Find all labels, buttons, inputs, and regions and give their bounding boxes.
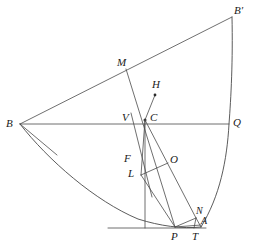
label-point-H: H (152, 79, 160, 90)
label-point-Bprime: B′ (234, 5, 243, 16)
segment-N-T (194, 218, 196, 228)
arc-Bprime-Q-A (201, 17, 232, 227)
geometry-canvas (0, 0, 256, 252)
label-point-B: B (6, 118, 13, 129)
label-point-P: P (171, 231, 178, 242)
label-point-O: O (170, 154, 178, 165)
point-dot-H (154, 94, 157, 97)
label-point-Q: Q (233, 117, 241, 128)
label-point-A: A (201, 216, 207, 226)
label-point-V: V (122, 112, 129, 123)
segment-L-P (141, 175, 175, 227)
label-point-F: F (124, 153, 131, 164)
segment-C-O-N (145, 120, 196, 218)
label-point-L: L (128, 168, 134, 179)
segment-B-lower-edge (20, 124, 57, 155)
label-point-C: C (150, 112, 157, 123)
line-M-C-P (126, 69, 175, 227)
line-V-F-L (131, 113, 152, 197)
label-point-M: M (117, 57, 126, 68)
geometry-figure: B B′ Q M H C V F L O N A P T (0, 0, 256, 252)
segment-B-Bprime (20, 17, 232, 124)
label-point-T: T (192, 231, 198, 242)
